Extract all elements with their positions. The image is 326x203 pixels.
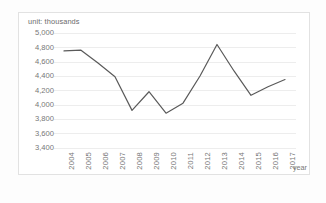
chart-plot-frame: [18, 12, 310, 175]
unit-annotation: unit: thousands: [28, 17, 80, 26]
x-axis-title: year: [293, 163, 307, 172]
chart-figure: unit: thousands 5,0004,8004,6004,4004,20…: [0, 0, 326, 203]
